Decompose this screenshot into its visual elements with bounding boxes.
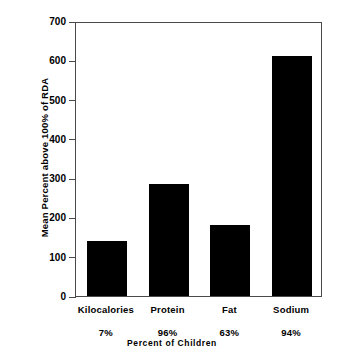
y-axis-tick-label: 600 [24,56,66,66]
x-axis-category-sodium: Sodium94% [246,305,336,337]
y-axis-tick-label: 200 [24,213,66,223]
x-axis-title: Percent of Children [0,338,344,348]
plot-area [75,22,322,297]
y-axis-tick-label: 300 [24,174,66,184]
bar-protein [149,184,189,296]
bar-chart-figure: Mean Percent above 100% of RDA 010020030… [0,0,344,356]
y-axis-tick-label: 0 [24,292,66,302]
y-axis-tick-label: 700 [24,17,66,27]
bar-sodium [272,56,312,296]
y-axis-tick-label: 100 [24,253,66,263]
bar-kilocalories [87,241,127,296]
category-percent: 94% [246,328,336,338]
y-axis-tick-label: 500 [24,96,66,106]
bar-fat [210,225,250,296]
y-axis-title: Mean Percent above 100% of RDA [39,28,50,288]
category-name: Sodium [246,305,336,315]
y-axis-tick-label: 400 [24,135,66,145]
